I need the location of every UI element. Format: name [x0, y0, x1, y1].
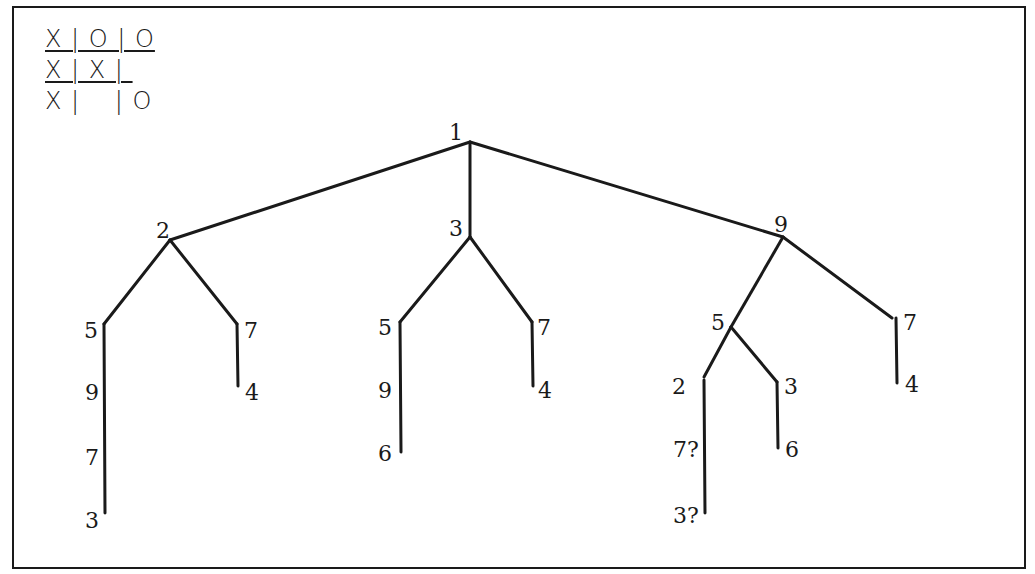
tree-node-label: 2 [156, 218, 170, 243]
tree-node-label: 1 [449, 120, 463, 145]
game-tree: 1239579473579465723467?3? [0, 0, 1035, 574]
tree-node-label: 9 [85, 380, 99, 405]
tree-node-label: 5 [84, 318, 98, 343]
tree-node-label: 6 [378, 441, 392, 466]
tree-node-label: 4 [245, 380, 259, 405]
tree-edge [783, 237, 892, 318]
tree-node-label: 3 [784, 374, 798, 399]
tree-node-label: 3 [85, 508, 99, 533]
tree-node-label: 9 [774, 212, 788, 237]
tree-edges [104, 142, 897, 513]
tree-node-label: 9 [378, 378, 392, 403]
tree-node-label: 4 [538, 378, 552, 403]
tree-edge [237, 324, 238, 386]
tree-edge [731, 237, 783, 327]
tree-node-label: 7 [244, 318, 258, 343]
tree-edge [896, 318, 897, 383]
tree-edge [104, 324, 105, 513]
tree-edge [777, 382, 778, 448]
tree-node-label: 7 [537, 315, 551, 340]
tree-node-label: 5 [711, 310, 725, 335]
tree-edge [104, 240, 170, 324]
tree-node-label: 3 [449, 216, 463, 241]
tree-node-label: 6 [785, 437, 799, 462]
tree-edge [400, 237, 470, 322]
tree-node-label: 3? [673, 503, 699, 528]
tree-edge [470, 142, 783, 237]
tree-node-label: 7? [673, 437, 699, 462]
tree-node-label: 4 [905, 372, 919, 397]
tree-node-label: 7 [85, 445, 99, 470]
tree-edge [400, 322, 401, 452]
tree-node-label: 7 [903, 310, 917, 335]
tree-labels: 1239579473579465723467?3? [84, 120, 919, 533]
tree-node-label: 2 [672, 374, 686, 399]
tree-edge [731, 327, 777, 382]
tree-node-label: 5 [378, 315, 392, 340]
tree-edge [532, 322, 533, 386]
tree-edge [470, 237, 532, 322]
tree-edge [704, 380, 705, 513]
tree-edge [170, 142, 470, 240]
tree-edge [170, 240, 237, 324]
